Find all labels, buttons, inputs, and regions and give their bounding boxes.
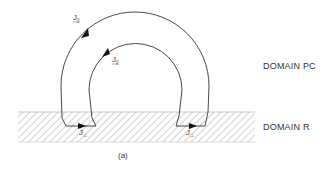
domain-r-label: DOMAIN R	[263, 122, 310, 132]
label-j-parallel-inner: J||	[112, 55, 119, 65]
domain-pc-label: DOMAIN PC	[263, 61, 316, 71]
svg-text:J||: J||	[112, 55, 119, 65]
arrow-inner-icon	[102, 48, 110, 57]
label-j-parallel-outer: J||	[73, 13, 80, 23]
figure-caption: (a)	[118, 151, 128, 160]
domain-r-region	[18, 112, 255, 142]
arrow-outer-icon	[81, 28, 89, 38]
domain-current-diagram: J|| J|| J⊥ J⊥ DOMAIN PC DOMAIN R (a)	[0, 0, 328, 175]
svg-text:J||: J||	[73, 13, 80, 23]
outer-current-arc	[61, 12, 209, 126]
